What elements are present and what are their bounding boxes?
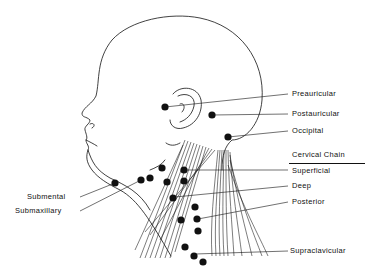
label-superficial: Superficial xyxy=(292,167,330,175)
cervical-chain-underline xyxy=(289,163,365,164)
node-posterior-3 xyxy=(194,227,201,234)
node-deep-2 xyxy=(169,194,176,201)
label-posterior: Posterior xyxy=(292,198,325,206)
lymph-nodes xyxy=(111,103,231,265)
label-cervical-chain-heading: Cervical Chain xyxy=(292,151,345,159)
node-occipital xyxy=(224,133,231,140)
node-posterior-1 xyxy=(191,203,198,210)
label-submental: Submental xyxy=(27,193,66,201)
node-deep-3 xyxy=(177,216,184,223)
node-superficial-1 xyxy=(158,164,165,171)
node-supraclavicular-2 xyxy=(190,252,197,259)
ear-outline xyxy=(170,88,201,128)
node-submaxillary-1 xyxy=(137,176,144,183)
head-neck-lymph-node-diagram xyxy=(0,0,383,276)
leader-lines xyxy=(80,94,288,254)
label-submaxillary: Submaxillary xyxy=(15,207,62,215)
trapezius-muscle xyxy=(211,150,268,256)
node-supraclavicular-3 xyxy=(199,258,206,265)
label-preauricular: Preauricular xyxy=(292,90,336,98)
node-posterior-2 xyxy=(193,215,200,222)
label-occipital: Occipital xyxy=(292,127,323,135)
node-preauricular xyxy=(161,103,168,110)
node-submental xyxy=(111,179,118,186)
label-postauricular: Postauricular xyxy=(292,110,340,118)
node-supraclavicular-1 xyxy=(181,243,188,250)
node-submaxillary-2 xyxy=(146,174,153,181)
node-superficial-3 xyxy=(180,177,187,184)
label-supraclavicular: Supraclavicular xyxy=(290,247,346,255)
node-deep-1 xyxy=(163,178,170,185)
node-superficial-2 xyxy=(180,166,187,173)
node-postauricular xyxy=(208,111,215,118)
label-deep: Deep xyxy=(292,182,311,190)
